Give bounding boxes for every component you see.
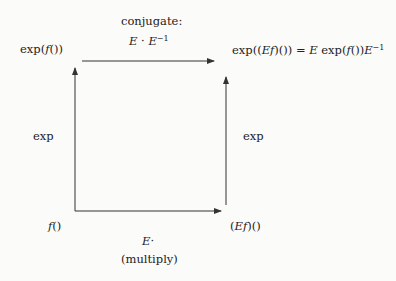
node-top-right: exp((Ef)()) = E exp(f())E−1 — [232, 44, 384, 57]
left-edge-label: exp — [33, 131, 54, 143]
bottom-edge-label-line1: E· — [142, 236, 154, 248]
bottom-edge-label-line2: (multiply) — [121, 254, 178, 266]
node-bottom-left: f() — [48, 221, 61, 233]
node-bottom-right: (Ef)() — [230, 221, 261, 233]
top-edge-label-line2: E · E−1 — [129, 35, 169, 48]
node-top-left: exp(f()) — [20, 44, 63, 56]
right-edge-label: exp — [243, 131, 264, 143]
top-edge-label-line1: conjugate: — [121, 16, 182, 28]
